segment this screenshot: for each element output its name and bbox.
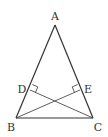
triangle-diagram: A B C D E: [0, 0, 108, 137]
label-d: D: [18, 83, 27, 96]
label-c: C: [94, 121, 102, 134]
label-b: B: [7, 121, 15, 134]
label-a: A: [50, 10, 60, 23]
label-e: E: [84, 83, 92, 96]
segment-ab: [16, 25, 55, 118]
